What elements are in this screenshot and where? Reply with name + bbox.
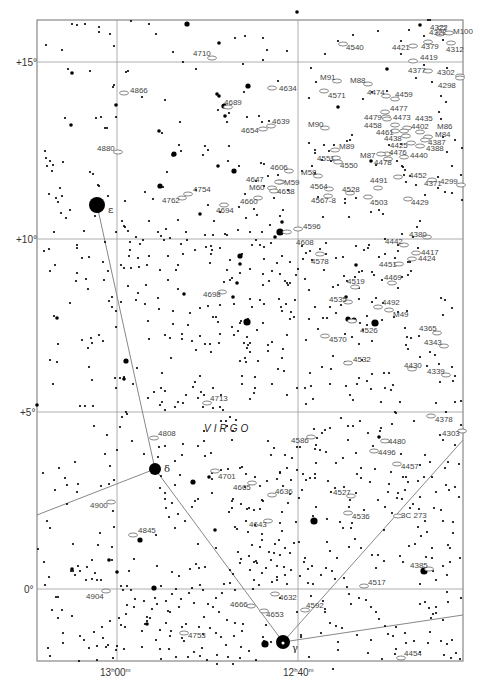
star: [119, 426, 121, 428]
galaxy-4660[interactable]: 4660: [240, 196, 263, 206]
star-delta[interactable]: δ: [149, 463, 170, 475]
galaxy-4666[interactable]: 4666: [230, 600, 256, 609]
galaxy-4586[interactable]: 4586: [291, 435, 316, 445]
galaxy-4385[interactable]: 4385: [410, 561, 434, 571]
galaxy-4866[interactable]: 4866: [120, 86, 149, 95]
galaxy-4424[interactable]: 4424: [408, 254, 437, 263]
galaxy-4608[interactable]: 4608: [283, 230, 315, 247]
galaxy-4710[interactable]: 4710: [193, 49, 217, 60]
galaxy-4754[interactable]: 4754: [184, 185, 212, 196]
star: [261, 640, 268, 647]
galaxy-4379[interactable]: 4379: [421, 40, 439, 51]
star: [375, 567, 377, 569]
galaxy-4762[interactable]: 4762: [162, 196, 187, 205]
galaxy-4343[interactable]: 4343: [424, 338, 449, 348]
galaxy-4845[interactable]: 4845: [129, 526, 157, 537]
galaxy-4880[interactable]: 4880: [97, 144, 123, 154]
galaxy-4474[interactable]: 4474: [367, 88, 391, 98]
galaxy-4491[interactable]: 4491: [370, 176, 388, 190]
galaxy-m59[interactable]: M59: [275, 178, 301, 187]
galaxy-4339[interactable]: 4339: [427, 367, 451, 377]
galaxy-4519[interactable]: 4519: [347, 277, 365, 289]
galaxy-4442[interactable]: 4442: [385, 237, 409, 247]
star: [225, 420, 227, 422]
star: [314, 306, 316, 308]
galaxy-4517[interactable]: 4517: [360, 578, 387, 588]
galaxy-4808[interactable]: 4808: [150, 429, 177, 440]
star: [315, 444, 317, 446]
galaxy-4904[interactable]: 4904: [86, 589, 111, 601]
galaxy-4571[interactable]: 4571: [320, 89, 347, 100]
galaxy-m49[interactable]: M49: [385, 308, 410, 319]
star: [71, 23, 73, 25]
galaxy-m89[interactable]: M89: [331, 142, 356, 152]
galaxy-4532[interactable]: 4532: [344, 355, 372, 365]
galaxy-4380[interactable]: 4380: [409, 230, 432, 239]
constellation-line: [283, 615, 463, 642]
galaxy-4377[interactable]: 4377: [408, 66, 433, 75]
galaxy-4419[interactable]: 4419: [409, 53, 439, 63]
star: [172, 51, 174, 53]
galaxy-4452[interactable]: 4452: [394, 171, 428, 180]
galaxy-4430[interactable]: 4430: [404, 361, 422, 371]
galaxy-m100[interactable]: M100: [445, 27, 474, 36]
galaxy-4643[interactable]: 4643: [249, 519, 273, 529]
galaxy-4429[interactable]: 4429: [404, 197, 430, 207]
galaxy-4457[interactable]: 4457: [393, 462, 420, 471]
galaxy-4527[interactable]: 4527: [333, 488, 356, 498]
galaxy-4900[interactable]: 4900: [90, 500, 116, 510]
galaxy-4567-8[interactable]: 4567-8: [311, 194, 336, 205]
galaxy-4421[interactable]: 4421: [392, 43, 418, 52]
galaxy-4503[interactable]: 4503: [364, 195, 389, 207]
galaxy-4701[interactable]: 4701: [211, 469, 237, 481]
star-gamma[interactable]: γ: [276, 635, 298, 653]
galaxy-4639[interactable]: 4639: [267, 117, 291, 128]
galaxy-4632[interactable]: 4632: [271, 592, 298, 602]
galaxy-m58[interactable]: M58: [301, 168, 323, 178]
galaxy-4478[interactable]: 4478: [374, 157, 393, 167]
galaxy-4653[interactable]: 4653: [260, 609, 285, 619]
galaxy-4473[interactable]: 4473: [383, 113, 412, 122]
star: [231, 326, 233, 328]
galaxy-4469[interactable]: 4469: [384, 273, 402, 285]
galaxy-m88[interactable]: M88: [350, 76, 373, 86]
galaxy-4459[interactable]: 4459: [391, 90, 414, 101]
star-epsilon[interactable]: ε: [89, 197, 113, 215]
galaxy-4634[interactable]: 4634: [268, 84, 298, 93]
star: [314, 477, 316, 479]
galaxy-4536[interactable]: 4536: [344, 511, 371, 521]
galaxy-4753[interactable]: 4753: [180, 631, 207, 640]
star: [286, 467, 288, 469]
star: [100, 579, 102, 581]
galaxy-4689[interactable]: 4689: [224, 98, 243, 109]
galaxy-4540[interactable]: 4540: [339, 42, 365, 52]
star: [284, 280, 286, 282]
galaxy-4698[interactable]: 4698: [203, 290, 227, 299]
galaxy-4535[interactable]: 4535: [329, 295, 353, 304]
galaxy-4694[interactable]: 4694: [216, 203, 234, 215]
galaxy-4665[interactable]: 4665: [233, 481, 257, 492]
star: [395, 648, 397, 650]
galaxy-4365[interactable]: 4365: [419, 324, 442, 335]
star: [377, 435, 381, 439]
galaxy-4298[interactable]: 4298: [438, 76, 465, 90]
galaxy-4606[interactable]: 4606: [270, 163, 294, 173]
galaxy-4378[interactable]: 4378: [427, 414, 454, 424]
galaxy-4451[interactable]: 4451: [379, 260, 404, 269]
galaxy-4550[interactable]: 4550: [334, 160, 359, 170]
galaxy-4492[interactable]: 4492: [374, 298, 401, 309]
galaxy-4312[interactable]: 4312: [446, 41, 464, 54]
galaxy-4654[interactable]: 4654: [241, 126, 268, 135]
galaxy-4480[interactable]: 4480: [381, 437, 407, 446]
galaxy-4299[interactable]: 4299: [440, 177, 466, 187]
galaxy-4636[interactable]: 4636: [268, 487, 294, 497]
galaxy-4496[interactable]: 4496: [370, 448, 397, 457]
galaxy-4528[interactable]: 4528: [342, 185, 360, 195]
galaxy-4454[interactable]: 4454: [397, 649, 423, 660]
galaxy-4570[interactable]: 4570: [321, 334, 348, 344]
galaxy-4713[interactable]: 4713: [203, 394, 229, 405]
galaxy-4592[interactable]: 4592: [301, 601, 325, 612]
galaxy-m91[interactable]: M91: [320, 73, 342, 83]
galaxy-4564[interactable]: 4564: [310, 182, 334, 191]
galaxy-m90[interactable]: M90: [308, 120, 330, 130]
